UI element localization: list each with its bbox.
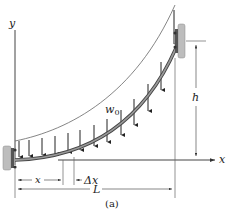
y-axis-label: y: [8, 17, 16, 30]
x-axis-label: x: [219, 153, 226, 166]
cable: [15, 48, 176, 160]
figure-caption: (a): [105, 198, 119, 209]
x-position-label: x: [35, 174, 41, 185]
y-axis: y: [8, 17, 16, 165]
x-dimension: x: [18, 174, 61, 185]
cable-diagram: y x w0: [0, 0, 229, 216]
x-axis: x: [58, 153, 226, 166]
span-dimension: L: [18, 183, 172, 196]
height-dimension: h: [186, 41, 206, 156]
span-label: L: [92, 183, 100, 196]
load-envelope: [15, 5, 175, 141]
height-label: h: [192, 91, 199, 104]
load-label: w0: [105, 103, 120, 117]
right-support: [174, 24, 186, 58]
distributed-load-arrows: [19, 10, 174, 157]
